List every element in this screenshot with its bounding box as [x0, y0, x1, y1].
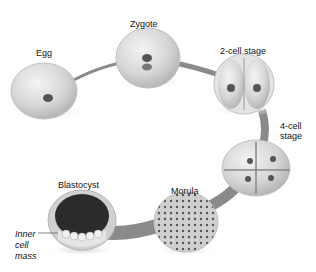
- label-egg: Egg: [36, 48, 52, 58]
- four-cell-stage: [222, 140, 290, 196]
- label-inner-cell-mass-line2: cell: [15, 240, 29, 250]
- label-inner-cell-mass-line1: Inner: [15, 229, 36, 239]
- label-4-cell-line2: stage: [280, 131, 302, 141]
- morula-cell: [154, 192, 218, 256]
- label-morula: Morula: [171, 186, 199, 196]
- two-cell-stage: [210, 54, 278, 116]
- zygote-cell: [116, 28, 184, 88]
- label-inner-cell-mass-line3: mass: [15, 251, 37, 261]
- label-4-cell-line1: 4-cell: [280, 121, 302, 131]
- blastocyst-cell: [38, 190, 118, 256]
- label-zygote: Zygote: [130, 19, 158, 29]
- embryo-development-diagram: Egg Zygote 2-cell stage 4-cell stage Mor…: [0, 0, 316, 272]
- label-blastocyst: Blastocyst: [58, 180, 99, 190]
- label-2-cell-stage: 2-cell stage: [220, 46, 266, 56]
- egg-cell: [11, 63, 84, 120]
- diagram-graphics: [0, 0, 316, 272]
